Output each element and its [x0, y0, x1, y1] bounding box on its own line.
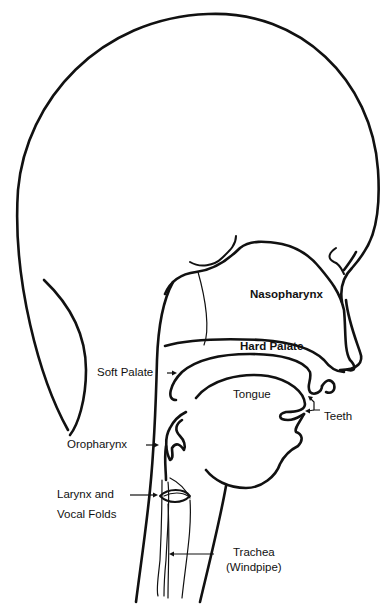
label-tongue: Tongue — [233, 388, 271, 400]
upper-lip — [322, 380, 334, 392]
vocal-folds-slit — [164, 493, 188, 496]
label-hard-palate: Hard Palate — [240, 340, 303, 352]
trachea-front — [182, 500, 190, 598]
neck-front — [200, 486, 226, 602]
arrow-trachea — [169, 552, 214, 557]
vocal-tract-diagram: Nasopharynx Hard Palate Soft Palate Tong… — [0, 0, 385, 606]
label-larynx-line2: Vocal Folds — [57, 508, 117, 520]
lower-lip-chin — [206, 414, 304, 488]
arrow-larynx — [130, 493, 158, 498]
label-teeth: Teeth — [324, 410, 352, 422]
label-nasopharynx: Nasopharynx — [250, 288, 323, 300]
label-trachea-line2: (Windpipe) — [226, 561, 282, 573]
label-trachea-line1: Trachea — [233, 546, 275, 558]
label-larynx-line1: Larynx and — [57, 488, 114, 500]
label-soft-palate: Soft Palate — [97, 366, 153, 378]
head-outline — [17, 14, 379, 430]
epiglottis — [166, 412, 186, 460]
oropharynx-anterior-wall — [165, 446, 166, 480]
nasal-bone — [330, 248, 344, 274]
sinus-curve — [190, 236, 236, 265]
neck-back-outline — [44, 280, 86, 435]
arrow-soft-palate — [167, 371, 177, 376]
arrow-teeth — [305, 396, 320, 414]
nasopharynx-back-wall — [198, 272, 207, 345]
trachea-back — [168, 504, 169, 598]
label-oropharynx: Oropharynx — [67, 438, 127, 450]
